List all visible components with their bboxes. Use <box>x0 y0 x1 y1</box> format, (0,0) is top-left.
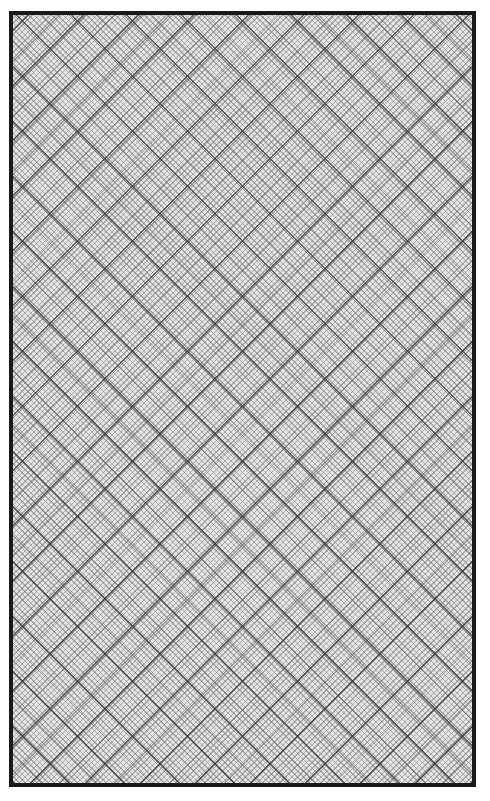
hatched-panel <box>9 11 476 787</box>
hatch-layer-bold-descending <box>13 15 472 783</box>
page-canvas <box>0 0 490 801</box>
